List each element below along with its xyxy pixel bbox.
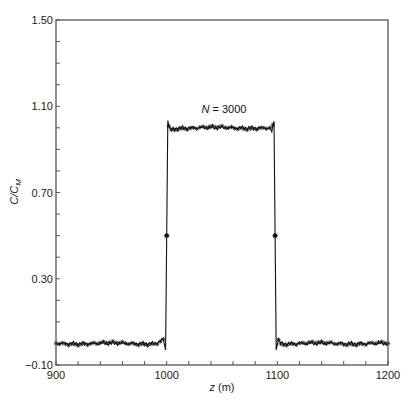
y-tick-label: −0.10 xyxy=(25,359,53,371)
plot-frame xyxy=(56,20,388,365)
y-tick-label: 0.30 xyxy=(32,273,53,285)
y-tick-label: 1.10 xyxy=(32,100,53,112)
axis-ticks xyxy=(56,20,388,365)
annotation-n-3000: N = 3000 xyxy=(202,103,247,115)
y-tick-label: 1.50 xyxy=(32,14,53,26)
y-tick-label: 0.70 xyxy=(32,187,53,199)
x-tick-label: 1200 xyxy=(376,369,400,381)
chart-figure: 900100011001200−0.100.300.701.101.50 N =… xyxy=(0,0,413,409)
data-series xyxy=(54,121,390,350)
tick-labels: 900100011001200−0.100.300.701.101.50 xyxy=(25,14,400,381)
series-line xyxy=(56,121,388,350)
asterisk-markers xyxy=(54,123,390,348)
x-tick-label: 1000 xyxy=(154,369,178,381)
y-axis-label: C/CM xyxy=(8,179,23,205)
x-axis-label: z(m) xyxy=(209,381,235,393)
x-tick-label: 1100 xyxy=(266,369,290,381)
